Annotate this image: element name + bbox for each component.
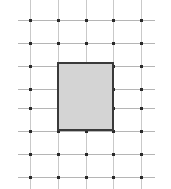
grid-node-r0-c4 xyxy=(140,19,143,22)
grid-node-r0-c0 xyxy=(29,19,32,22)
grid-node-r1-c1 xyxy=(57,42,60,45)
grid-node-r7-c3 xyxy=(112,176,115,179)
grid-node-r0-c1 xyxy=(57,19,60,22)
grid-node-r1-c3 xyxy=(112,42,115,45)
grid-node-r7-c0 xyxy=(29,176,32,179)
grid-node-r7-c4 xyxy=(140,176,143,179)
figure-canvas xyxy=(0,0,171,189)
grid-node-r4-c4 xyxy=(140,107,143,110)
grid-node-r7-c1 xyxy=(57,176,60,179)
grid-node-r7-c2 xyxy=(85,176,88,179)
grid-line-vertical-4 xyxy=(141,0,142,189)
grid-node-r6-c2 xyxy=(85,153,88,156)
grid-node-r1-c0 xyxy=(29,42,32,45)
grid-node-r5-c4 xyxy=(140,130,143,133)
grid-node-r6-c3 xyxy=(112,153,115,156)
grid-node-r6-c1 xyxy=(57,153,60,156)
grid-node-r2-c4 xyxy=(140,65,143,68)
grid-line-vertical-0 xyxy=(30,0,31,189)
grid-node-r5-c0 xyxy=(29,130,32,133)
grid-node-r0-c2 xyxy=(85,19,88,22)
grid-node-r6-c0 xyxy=(29,153,32,156)
grid-node-r0-c3 xyxy=(112,19,115,22)
grid-node-r2-c0 xyxy=(29,65,32,68)
shaded-square-region xyxy=(57,62,114,131)
grid-node-r1-c4 xyxy=(140,42,143,45)
grid-node-r4-c0 xyxy=(29,107,32,110)
grid-node-r3-c4 xyxy=(140,88,143,91)
grid-node-r3-c0 xyxy=(29,88,32,91)
grid-node-r6-c4 xyxy=(140,153,143,156)
grid-node-r1-c2 xyxy=(85,42,88,45)
